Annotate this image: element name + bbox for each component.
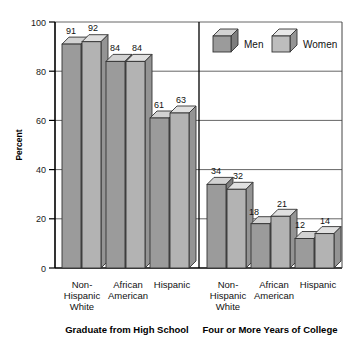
bar-front-face [295, 239, 314, 269]
cat-line-1: Hispanic [300, 279, 337, 290]
bar-side-face [189, 106, 196, 268]
value-label-p1-women-nhw: 32 [233, 171, 243, 181]
bar-front-face [170, 113, 189, 268]
cat-line-1: African [259, 279, 289, 290]
value-label-p1-men-hisp: 12 [295, 220, 305, 230]
y-tick-label-20: 20 [36, 214, 46, 224]
bar-chart: 100 80 60 40 20 0 Percent [0, 0, 359, 346]
cat-line-1: Hispanic [154, 279, 191, 290]
value-label-p1-women-hisp: 14 [320, 216, 330, 226]
cat-line-2: American [108, 290, 148, 301]
y-tick-label-100: 100 [31, 18, 46, 28]
bar-front-face [271, 216, 290, 268]
value-label-p0-women-nhw: 92 [88, 23, 98, 33]
bar-p0-women-hisp [170, 106, 196, 268]
legend-swatch-men[interactable] [213, 29, 238, 52]
bar-front-face [62, 44, 81, 268]
bar-p0-women-aa [126, 54, 152, 268]
bar-front-face [150, 118, 169, 268]
y-tick-label-60: 60 [36, 116, 46, 126]
bar-side-face [334, 227, 341, 268]
cat-line-3: White [70, 301, 94, 312]
bar-p1-women-nhw [227, 182, 253, 268]
panel-title-right: Four or More Years of College [203, 324, 338, 335]
value-label-p0-men-nhw: 91 [66, 26, 76, 36]
bar-group-p0-nhw: 91 92 [62, 23, 108, 268]
legend-swatch-women[interactable] [272, 29, 297, 52]
bar-front-face [106, 61, 125, 268]
cat-line-1: African [113, 279, 143, 290]
bar-front-face [207, 184, 226, 268]
cat-line-1: Non- [72, 279, 93, 290]
value-label-p0-men-hisp: 61 [154, 100, 164, 110]
cat-line-3: White [216, 301, 240, 312]
value-label-p0-women-aa: 84 [132, 43, 142, 53]
value-label-p0-women-hisp: 63 [176, 95, 186, 105]
cat-line-2: Hispanic [210, 290, 247, 301]
category-label-p1-aa: African American [254, 279, 294, 301]
bar-front-face [126, 61, 145, 268]
bar-front-face [227, 189, 246, 268]
bar-p0-women-nhw [82, 35, 108, 268]
bar-front-face [82, 42, 101, 268]
bar-front-face [251, 224, 270, 268]
y-axis-title: Percent [14, 129, 24, 160]
cube-front-face [213, 36, 231, 52]
legend-label-women: Women [303, 39, 337, 50]
value-label-p1-men-nhw: 34 [211, 166, 221, 176]
value-label-p1-women-aa: 21 [277, 199, 287, 209]
bar-p1-women-hisp [315, 227, 341, 268]
chart-svg: 100 80 60 40 20 0 Percent [0, 0, 359, 346]
bar-p1-women-aa [271, 209, 297, 268]
value-label-p1-men-aa: 18 [249, 207, 259, 217]
y-tick-label-40: 40 [36, 165, 46, 175]
bar-front-face [315, 234, 334, 268]
y-tick-label-80: 80 [36, 67, 46, 77]
category-label-p1-hisp: Hispanic [300, 279, 337, 290]
cube-front-face [272, 36, 290, 52]
y-tick-label-0: 0 [41, 264, 46, 274]
category-label-p0-hisp: Hispanic [154, 279, 191, 290]
cat-line-2: American [254, 290, 294, 301]
category-label-p0-aa: African American [108, 279, 148, 301]
bar-group-p0-aa: 84 84 [106, 43, 152, 268]
legend-label-men: Men [244, 39, 263, 50]
value-label-p0-men-aa: 84 [110, 43, 120, 53]
bar-group-p0-hisp: 61 63 [150, 95, 196, 269]
panel-title-left: Graduate from High School [65, 324, 189, 335]
cat-line-2: Hispanic [64, 290, 101, 301]
cat-line-1: Non- [218, 279, 239, 290]
